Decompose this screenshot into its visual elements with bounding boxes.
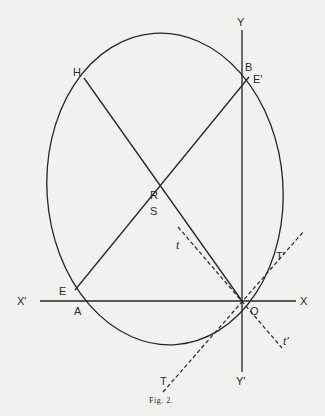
chord-e-e-prime <box>75 77 249 290</box>
chord-h-o <box>84 78 242 301</box>
label-t-prime-lower: t′ <box>283 334 289 348</box>
label-h: H <box>73 66 81 78</box>
label-b: B <box>245 61 252 73</box>
label-r: R <box>150 189 158 201</box>
label-s: S <box>150 205 157 217</box>
label-t-lower: t <box>176 238 180 252</box>
label-y: Y <box>237 16 245 28</box>
label-x: X <box>300 295 308 307</box>
label-t-upper: T <box>160 375 167 387</box>
label-a: A <box>74 305 82 317</box>
figure-caption: Fig. 2. <box>149 396 173 405</box>
label-y-prime: Y′ <box>236 375 245 387</box>
label-e: E <box>59 285 66 297</box>
ellipse-diagram: Y Y′ X X′ B E′ H R S t t′ T T′ E A O Fig… <box>0 0 325 416</box>
line-t-t-prime <box>178 227 282 348</box>
label-e-prime: E′ <box>253 73 262 85</box>
label-x-prime: X′ <box>17 295 26 307</box>
label-t-prime-upper: T′ <box>276 250 285 262</box>
label-o: O <box>250 305 259 317</box>
